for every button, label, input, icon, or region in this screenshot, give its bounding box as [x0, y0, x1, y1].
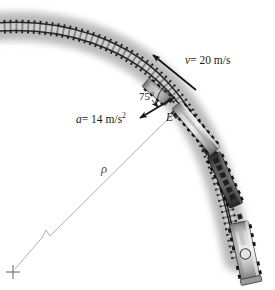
center-of-curvature-marker — [6, 265, 20, 279]
break-mark — [40, 230, 50, 240]
acceleration-label: a= 14 m/s2 — [76, 112, 126, 125]
figure-canvas — [0, 0, 275, 290]
velocity-value: = 20 m/s — [190, 54, 230, 66]
kinematics-figure: v= 20 m/s a= 14 m/s2 75° E ρ — [0, 0, 275, 290]
acceleration-value: = 14 m/s — [82, 113, 122, 125]
velocity-label: v= 20 m/s — [185, 55, 230, 67]
radius-label: ρ — [101, 163, 107, 176]
radius-of-curvature-line — [15, 111, 176, 269]
acceleration-exponent: 2 — [122, 111, 126, 120]
point-e-label: E — [166, 112, 173, 124]
angle-label: 75° — [139, 91, 154, 102]
